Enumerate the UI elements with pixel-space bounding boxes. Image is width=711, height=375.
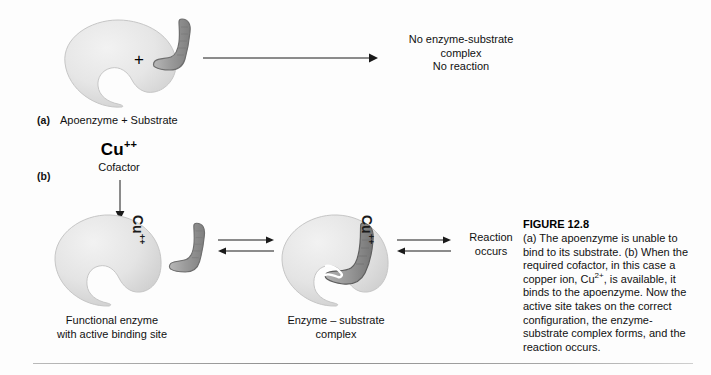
outcome-line-2: complex — [381, 47, 541, 61]
caption-ion-base: Cu — [580, 273, 594, 285]
bound-ion-charge-2: ++ — [366, 234, 376, 245]
no-reaction-outcome-text: No enzyme-substrate complex No reaction — [381, 33, 541, 74]
caption-line-1: (a) The apoenzyme is unable to — [523, 232, 678, 244]
reaction-arrow-panel-a — [203, 50, 378, 66]
cofactor-symbol: Cu++ — [81, 141, 157, 158]
reaction-line-2: occurs — [453, 245, 529, 259]
substrate-shape-panel-a — [152, 16, 198, 78]
reaction-line-1: Reaction — [453, 231, 529, 245]
bottom-divider — [33, 363, 693, 364]
outcome-line-1: No enzyme-substrate — [381, 33, 541, 47]
cofactor-symbol-base: Cu — [101, 140, 124, 159]
panel-b-label: (b) — [37, 170, 51, 182]
bound-ion-label-complex: Cu++ — [375, 215, 376, 216]
caption-line-7: configuration, the enzyme- — [523, 314, 653, 326]
functional-enzyme-caption-line-2: with active binding site — [48, 328, 176, 342]
caption-line-8: substrate complex forms, and the — [523, 327, 686, 339]
bound-ion-label-functional-enzyme: Cu++ — [146, 215, 147, 216]
figure-container: + No — [0, 0, 711, 375]
functional-enzyme-shape — [52, 213, 164, 309]
caption-ion-charge: 2+ — [595, 271, 604, 280]
figure-caption-block: FIGURE 12.8 (a) The apoenzyme is unable … — [523, 217, 695, 354]
panel-a-caption: Apoenzyme + Substrate — [60, 114, 178, 126]
bound-ion-charge-1: ++ — [137, 234, 147, 245]
caption-line-9: reaction occurs. — [523, 341, 601, 353]
equilibrium-arrows-1 — [218, 234, 274, 258]
bound-ion-base-1: Cu — [130, 215, 146, 234]
caption-line-2: bind to its substrate. (b) When the — [523, 246, 688, 258]
figure-caption-title: FIGURE 12.8 — [523, 217, 695, 231]
caption-line-3: required cofactor, in this case a — [523, 259, 675, 271]
caption-line-6: active site takes on the correct — [523, 300, 672, 312]
substrate-shape-panel-b — [168, 219, 212, 281]
reaction-occurs-text: Reaction occurs — [453, 231, 529, 258]
cofactor-symbol-charge: ++ — [124, 138, 137, 150]
functional-enzyme-caption-line-1: Functional enzyme — [48, 314, 176, 328]
bound-ion-base-2: Cu — [359, 215, 375, 234]
functional-enzyme-caption: Functional enzyme with active binding si… — [48, 314, 176, 341]
panel-a-label: (a) — [37, 114, 50, 126]
complex-caption: Enzyme – substrate complex — [276, 314, 396, 341]
equilibrium-arrows-2 — [397, 234, 451, 258]
complex-caption-line-1: Enzyme – substrate — [276, 314, 396, 328]
complex-caption-line-2: complex — [276, 328, 396, 342]
enzyme-substrate-complex-shape — [281, 213, 397, 309]
caption-line-5: binds to the apoenzyme. Now the — [523, 286, 686, 298]
outcome-line-3: No reaction — [381, 60, 541, 74]
figure-caption-body: (a) The apoenzyme is unable to bind to i… — [523, 232, 695, 354]
cofactor-word: Cofactor — [81, 161, 157, 174]
plus-sign-panel-a: + — [134, 53, 144, 67]
